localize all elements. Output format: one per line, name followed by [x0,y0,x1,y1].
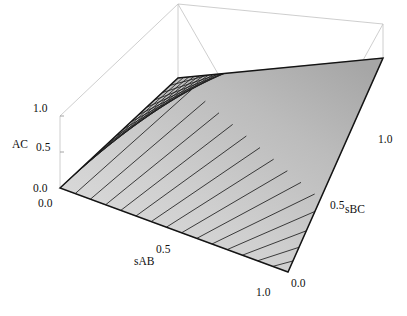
tick-label-sbc-1: 1.0 [378,134,392,146]
tick-label-sab-0: 0.0 [38,198,52,210]
surface-plot-figure: 1.0 0.5 0.0 AC 0.0 0.5 1.0 sAB 0.0 0.5 1… [0,0,407,316]
plot-canvas [0,0,407,316]
tick-label-ac-1: 1.0 [33,103,47,115]
tick-label-ac-05: 0.5 [36,142,50,154]
axis-tick-marks [60,116,64,188]
axis-label-sbc: sBC [345,204,365,216]
surface-mesh [60,58,383,272]
tick-label-sbc-0: 0.0 [291,278,305,290]
tick-label-ac-0: 0.0 [33,183,47,195]
tick-label-sab-1: 1.0 [256,287,270,299]
tick-label-sab-05: 0.5 [156,244,170,256]
axis-label-ac: AC [12,139,28,151]
axis-label-sab: sAB [134,256,154,268]
tick-label-sbc-05: 0.5 [330,200,344,212]
